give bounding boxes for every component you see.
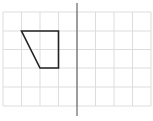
reflection-diagram (0, 0, 153, 121)
